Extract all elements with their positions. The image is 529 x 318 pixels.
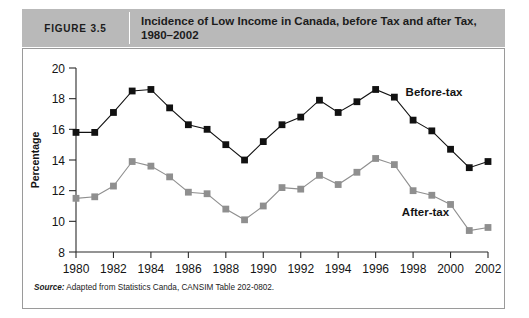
series-line-1 bbox=[76, 158, 488, 230]
source-note: Source: Adapted from Statistics Canda, C… bbox=[34, 283, 274, 292]
data-point bbox=[354, 98, 361, 105]
data-point bbox=[354, 169, 361, 176]
data-point bbox=[260, 203, 267, 210]
data-point bbox=[166, 104, 173, 111]
x-tick-label: 1980 bbox=[63, 262, 90, 276]
data-point bbox=[316, 172, 323, 179]
data-point bbox=[148, 163, 155, 170]
x-tick-label: 1994 bbox=[325, 262, 352, 276]
y-tick-label: 16 bbox=[52, 123, 66, 137]
x-tick-label: 2000 bbox=[437, 262, 464, 276]
data-point bbox=[335, 181, 342, 188]
x-tick-label: 1982 bbox=[100, 262, 127, 276]
y-tick-label: 14 bbox=[52, 154, 66, 168]
data-point bbox=[316, 97, 323, 104]
source-prefix: Source: bbox=[34, 283, 64, 292]
x-tick-label: 1998 bbox=[400, 262, 427, 276]
data-point bbox=[185, 121, 192, 128]
data-point bbox=[260, 138, 267, 145]
data-point bbox=[447, 146, 454, 153]
data-point bbox=[110, 109, 117, 116]
source-text: Adapted from Statistics Canda, CANSIM Ta… bbox=[64, 283, 274, 292]
data-point bbox=[279, 184, 286, 191]
x-tick-label: 1984 bbox=[138, 262, 165, 276]
data-point bbox=[166, 173, 173, 180]
x-tick-label: 1992 bbox=[287, 262, 314, 276]
data-point bbox=[73, 129, 80, 136]
data-point bbox=[485, 158, 492, 165]
figure-number-cell: FIGURE 3.5 bbox=[22, 9, 129, 47]
data-point bbox=[204, 126, 211, 133]
data-point bbox=[241, 216, 248, 223]
x-tick-label: 2002 bbox=[475, 262, 502, 276]
figure-container: FIGURE 3.5 Incidence of Low Income in Ca… bbox=[0, 0, 529, 318]
x-tick-label: 1988 bbox=[212, 262, 239, 276]
figure-title-cell: Incidence of Low Income in Canada, befor… bbox=[130, 9, 505, 47]
data-point bbox=[391, 94, 398, 101]
data-point bbox=[297, 114, 304, 121]
before-tax-label: Before-tax bbox=[406, 86, 463, 98]
series-line-0 bbox=[76, 89, 488, 167]
data-point bbox=[241, 157, 248, 164]
data-point bbox=[91, 129, 98, 136]
y-tick-label: 18 bbox=[52, 92, 66, 106]
data-point bbox=[335, 109, 342, 116]
x-tick-label: 1996 bbox=[362, 262, 389, 276]
y-tick-label: 10 bbox=[52, 215, 66, 229]
series-after-tax bbox=[73, 155, 492, 234]
line-chart: 8101214161820198019821984198619881990199… bbox=[22, 48, 505, 309]
y-tick-label: 8 bbox=[58, 246, 65, 260]
data-point bbox=[466, 164, 473, 171]
data-point bbox=[110, 183, 117, 190]
data-point bbox=[372, 155, 379, 162]
y-tick-label: 20 bbox=[52, 62, 66, 76]
data-point bbox=[297, 186, 304, 193]
data-point bbox=[222, 141, 229, 148]
data-point bbox=[73, 195, 80, 202]
after-tax-label: After-tax bbox=[402, 206, 450, 218]
data-point bbox=[129, 88, 136, 95]
data-point bbox=[372, 86, 379, 93]
data-point bbox=[410, 187, 417, 194]
data-point bbox=[129, 158, 136, 165]
data-point bbox=[204, 190, 211, 197]
data-point bbox=[148, 86, 155, 93]
data-point bbox=[91, 193, 98, 200]
data-point bbox=[222, 206, 229, 213]
data-point bbox=[485, 224, 492, 231]
data-point bbox=[466, 227, 473, 234]
data-point bbox=[279, 121, 286, 128]
x-tick-label: 1986 bbox=[175, 262, 202, 276]
figure-number-label: FIGURE 3.5 bbox=[44, 23, 106, 34]
data-point bbox=[428, 127, 435, 134]
data-point bbox=[428, 192, 435, 199]
data-point bbox=[185, 189, 192, 196]
y-tick-label: 12 bbox=[52, 184, 66, 198]
x-tick-label: 1990 bbox=[250, 262, 277, 276]
figure-title: Incidence of Low Income in Canada, befor… bbox=[141, 14, 499, 43]
data-point bbox=[391, 161, 398, 168]
figure-header-band: FIGURE 3.5 Incidence of Low Income in Ca… bbox=[22, 9, 505, 47]
data-point bbox=[410, 117, 417, 124]
y-axis-title: Percentage bbox=[29, 132, 41, 189]
